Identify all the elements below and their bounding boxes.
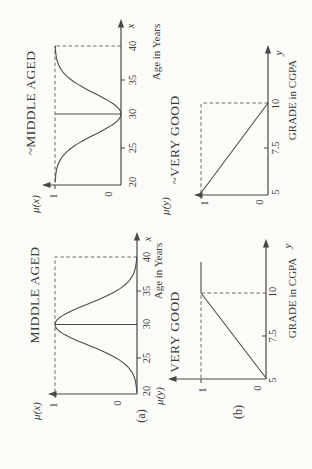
mu-axis-label: μ(x) (29, 195, 42, 214)
mu-tick-1: 1 (199, 200, 210, 205)
mu-tick-0: 0 (112, 400, 123, 405)
x-tick: 20 (127, 177, 138, 188)
x-axis-arrow-icon (265, 45, 271, 54)
mu-axis-label: μ(y) (159, 197, 172, 216)
mu-axis-label: μ(y) (153, 387, 166, 406)
x-axis-name: Age in Years (152, 243, 164, 300)
x-tick: 10 (270, 99, 281, 110)
membership-curve (201, 103, 268, 193)
x-arrow-label: x (124, 23, 136, 29)
mu-axis-arrow-icon (42, 182, 51, 188)
mu-tick-1: 1 (197, 387, 208, 392)
x-tick: 30 (127, 109, 138, 120)
x-tick: 20 (141, 386, 152, 397)
x-tick: 30 (141, 319, 152, 330)
x-tick: 25 (141, 353, 152, 364)
panel-label-a: (a) (134, 409, 148, 422)
mu-tick-0: 0 (103, 191, 114, 196)
plot-not-very-good: ~VERY GOOD μ(y) 1 0 5 7.5 10 y GRADE in … (159, 45, 298, 216)
plot-title: MIDDLE AGED (27, 246, 42, 343)
panel-label-b: (b) (231, 405, 245, 419)
plot-middle-aged: MIDDLE AGED μ(x) 1 0 20 25 30 35 40 x Ag… (27, 232, 163, 423)
x-axis-name: GRADE in CGPA (286, 60, 298, 140)
x-tick: 5 (267, 377, 278, 382)
plot-not-middle-aged: ~MIDDLE AGED μ(x) 1 0 20 25 30 35 40 x A… (23, 19, 161, 214)
x-tick: 7.5 (267, 329, 278, 342)
x-axis-arrow-icon (263, 239, 269, 248)
x-arrow-label: y (281, 243, 293, 249)
mu-tick-1: 1 (48, 193, 59, 198)
plot-title: ~MIDDLE AGED (23, 51, 38, 156)
x-tick: 7.5 (270, 141, 281, 154)
mu-axis-label: μ(x) (30, 402, 43, 421)
x-tick: 5 (270, 189, 281, 194)
plot-title: VERY GOOD (167, 291, 182, 372)
mu-tick-0: 0 (254, 199, 265, 204)
x-axis-arrow-icon (134, 232, 140, 241)
x-tick: 35 (127, 75, 138, 86)
x-axis-name: Age in Years (150, 24, 162, 81)
x-arrow-label: y (272, 50, 284, 56)
x-tick: 10 (267, 287, 278, 298)
page: { "figure": { "panel_a": "(a)", "panel_b… (0, 0, 312, 469)
mu-axis-arrow-icon (168, 376, 177, 382)
membership-curve (201, 262, 266, 378)
mu-tick-1: 1 (48, 402, 59, 407)
plot-title: ~VERY GOOD (167, 95, 182, 184)
x-tick: 40 (127, 41, 138, 52)
mu-tick-0: 0 (252, 385, 263, 390)
x-tick: 25 (127, 143, 138, 154)
figure-canvas: ~MIDDLE AGED μ(x) 1 0 20 25 30 35 40 x A… (0, 0, 312, 469)
x-arrow-label: x (141, 236, 153, 242)
plot-very-good: VERY GOOD μ(y) 1 0 5 7.5 10 y GRADE in C… (153, 239, 298, 419)
x-axis-name: GRADE in CGPA (286, 258, 298, 338)
